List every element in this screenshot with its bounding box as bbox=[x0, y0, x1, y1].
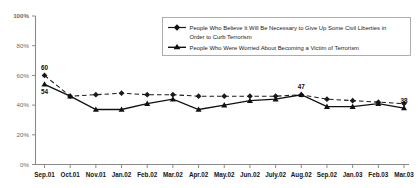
y-tick-label-80: 80% bbox=[17, 42, 30, 49]
legend-label-2-line1: People Who Were Worried About Becoming a… bbox=[190, 45, 360, 51]
series-line bbox=[45, 75, 405, 103]
x-tick-label: Sep.02 bbox=[317, 171, 338, 179]
x-tick-label: Mar.03 bbox=[394, 171, 414, 178]
data-point-diamond bbox=[324, 96, 330, 102]
x-tick-label: Sep.01 bbox=[34, 171, 55, 179]
data-point-diamond bbox=[119, 90, 125, 96]
y-tick-label-60: 60% bbox=[17, 72, 30, 79]
y-tick-label-40: 40% bbox=[17, 101, 30, 108]
x-tick-label: Feb.03 bbox=[368, 171, 388, 178]
x-tick-label: Jun.02 bbox=[240, 171, 260, 178]
chart-plot-area: 0% 20% 40% 60% 80% 100% Sep.01Oct.01Nov.… bbox=[0, 0, 418, 188]
data-point-triangle bbox=[170, 96, 176, 101]
x-tick-label: July.02 bbox=[265, 171, 286, 179]
legend-label-1-line1: People Who Believe It Will Be Necessary … bbox=[190, 25, 387, 31]
x-tick-label: Oct.01 bbox=[61, 171, 81, 178]
data-point-diamond bbox=[221, 93, 227, 99]
data-point-triangle bbox=[42, 81, 48, 86]
y-tick-label-20: 20% bbox=[17, 131, 30, 138]
x-tick-label: Aug.02 bbox=[291, 171, 312, 179]
x-tick-label: Apr.02 bbox=[189, 171, 209, 179]
terrorism-opinion-line-chart: 0% 20% 40% 60% 80% 100% Sep.01Oct.01Nov.… bbox=[0, 0, 418, 188]
series-layer bbox=[42, 73, 408, 112]
x-axis-labels: Sep.01Oct.01Nov.01Jan.02Feb.02Mar.02Apr.… bbox=[34, 171, 414, 179]
x-tick-label: Nov.01 bbox=[86, 171, 107, 178]
x-tick-label: Jan.03 bbox=[343, 171, 363, 178]
data-point-value-label: 38 bbox=[400, 97, 408, 104]
x-tick-label: Feb.02 bbox=[137, 171, 157, 178]
data-point-value-label: 47 bbox=[298, 83, 306, 90]
data-point-value-label: 54 bbox=[41, 88, 49, 95]
data-point-diamond bbox=[196, 93, 202, 99]
data-point-diamond bbox=[350, 98, 356, 104]
x-tick-label: Jan.02 bbox=[112, 171, 132, 178]
data-point-diamond bbox=[144, 92, 150, 98]
series-civil-liberties bbox=[42, 73, 407, 107]
x-tick-label: May.02 bbox=[214, 171, 235, 179]
data-point-value-label: 60 bbox=[41, 64, 49, 71]
data-point-diamond bbox=[93, 92, 99, 98]
legend-entry-worried-victim[interactable]: People Who Were Worried About Becoming a… bbox=[168, 44, 359, 51]
y-tick-label-100: 100% bbox=[13, 12, 29, 19]
legend-label-1-line2: Order to Curb Terrorism bbox=[190, 34, 252, 40]
y-tick-label-0: 0% bbox=[20, 161, 29, 168]
x-tick-label: Mar.02 bbox=[163, 171, 183, 178]
